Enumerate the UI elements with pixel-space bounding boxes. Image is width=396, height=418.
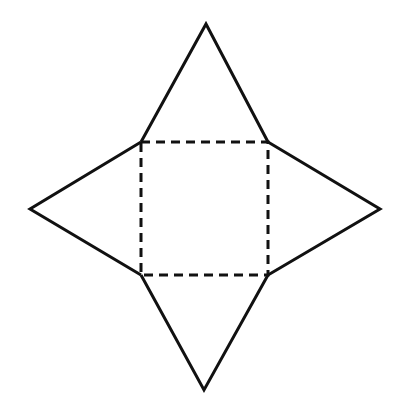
pyramid-net-diagram (0, 0, 396, 418)
background (0, 0, 396, 418)
